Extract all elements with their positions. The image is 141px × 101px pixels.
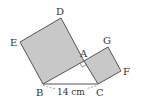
square-agfc xyxy=(84,47,121,84)
label-c: C xyxy=(96,87,104,98)
label-b: B xyxy=(36,87,43,98)
label-g: G xyxy=(103,35,111,46)
geometry-figure: D E A G F B C 14 cm xyxy=(0,0,141,101)
dimension-bc-label: 14 cm xyxy=(57,87,85,97)
label-e: E xyxy=(10,37,17,48)
label-a: A xyxy=(79,48,88,59)
label-f: F xyxy=(123,66,130,77)
label-d: D xyxy=(56,6,64,17)
square-abed xyxy=(20,18,84,84)
